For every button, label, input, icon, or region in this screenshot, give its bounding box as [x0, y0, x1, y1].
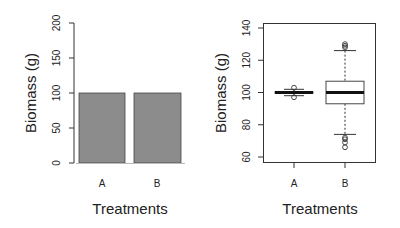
x-tick-label-a: A [99, 178, 106, 189]
outlier-point [343, 145, 348, 150]
figure: 0 50 100 150 200 A B Treatments Biomass … [0, 0, 400, 228]
x-tick-label-a: A [291, 178, 298, 189]
box-B [326, 42, 364, 150]
bar-B [134, 93, 181, 163]
x-axis-title: Treatments [282, 200, 357, 217]
box-plot: 60 80 100 120 140 [212, 19, 376, 217]
y-axis-title: Biomass (g) [212, 53, 229, 133]
y-axis-title: Biomass (g) [22, 53, 39, 133]
y-tick-label: 100 [241, 84, 252, 101]
y-tick-labels: 60 80 100 120 140 [241, 19, 252, 162]
y-tick-labels: 0 50 100 150 200 [51, 14, 62, 166]
y-axis-ticks [69, 23, 74, 163]
box-A [275, 85, 313, 99]
bar-A [79, 93, 125, 163]
x-axis-title: Treatments [92, 200, 167, 217]
y-tick-label: 80 [241, 119, 252, 131]
y-tick-label: 0 [51, 160, 62, 166]
y-tick-label: 140 [241, 19, 252, 36]
y-axis-ticks [258, 28, 264, 157]
y-tick-label: 150 [51, 49, 62, 66]
y-tick-label: 200 [51, 14, 62, 31]
y-tick-label: 50 [51, 122, 62, 134]
y-tick-label: 60 [241, 151, 252, 163]
x-tick-label-b: B [342, 178, 349, 189]
bar-chart: 0 50 100 150 200 A B Treatments Biomass … [22, 14, 185, 217]
y-tick-label: 120 [241, 51, 252, 68]
x-tick-label-b: B [154, 178, 161, 189]
outlier-point [343, 140, 348, 145]
y-tick-label: 100 [51, 84, 62, 101]
